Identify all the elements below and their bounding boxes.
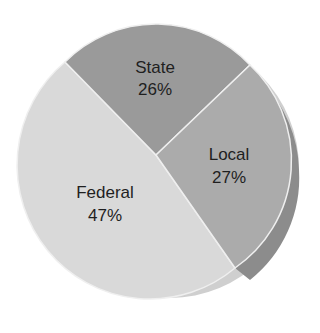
label-federal-pct: 47% [88, 206, 122, 225]
label-state-name: State [135, 58, 175, 77]
pie-chart-svg: State 26% Local 27% Federal 47% [0, 0, 320, 333]
pie-chart: State 26% Local 27% Federal 47% [0, 0, 320, 333]
label-local-pct: 27% [212, 168, 246, 187]
label-local-name: Local [209, 145, 250, 164]
label-state-pct: 26% [138, 80, 172, 99]
label-federal-name: Federal [76, 183, 134, 202]
